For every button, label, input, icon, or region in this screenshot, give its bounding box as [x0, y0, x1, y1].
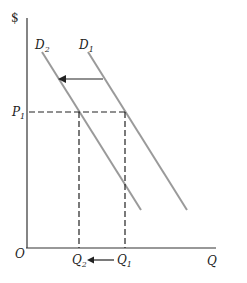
- demand-curve-d2: [42, 52, 141, 210]
- d2-label: D2: [34, 38, 50, 54]
- origin-label: O: [15, 247, 25, 261]
- demand-curve-d1: [88, 52, 187, 210]
- shift-arrow-head-icon: [58, 75, 66, 83]
- demand-shift-diagram: $ Q O D2 D1 P1 Q2 Q1: [0, 0, 247, 283]
- q1-label: Q1: [117, 253, 132, 269]
- x-axis-label: Q: [207, 254, 217, 268]
- d1-label: D1: [78, 38, 94, 54]
- quantity-arrow-head-icon: [87, 257, 94, 264]
- p1-label: P1: [11, 105, 25, 121]
- q2-label: Q2: [72, 253, 87, 269]
- y-axis-label: $: [11, 11, 19, 25]
